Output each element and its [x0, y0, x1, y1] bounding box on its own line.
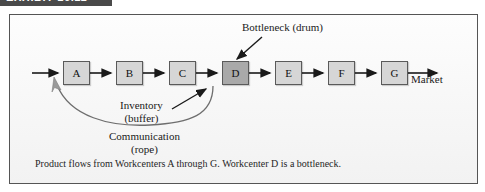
pointer-bottleneck-to-d — [237, 37, 262, 59]
label-inventory-line2: (buffer) — [120, 112, 163, 125]
workcenter-box-a[interactable]: A — [63, 61, 90, 85]
workcenter-box-e[interactable]: E — [275, 61, 302, 85]
exhibit-figure-screenshot: EXHIBIT 16.11 — [0, 0, 485, 192]
workcenter-box-g[interactable]: G — [381, 61, 408, 85]
label-inventory-line1: Inventory — [120, 99, 163, 112]
rope-arrowhead-at-a — [52, 77, 61, 92]
label-communication-line2: (rope) — [109, 143, 180, 156]
workcenter-box-c[interactable]: C — [169, 61, 196, 85]
figure-caption: Product flows from Workcenters A through… — [35, 158, 341, 169]
workcenter-box-f[interactable]: F — [328, 61, 355, 85]
label-communication-line1: Communication — [109, 130, 180, 143]
workcenter-box-b[interactable]: B — [116, 61, 143, 85]
label-inventory-buffer: Inventory (buffer) — [120, 99, 163, 125]
label-communication-rope: Communication (rope) — [109, 130, 180, 156]
label-bottleneck-drum: Bottleneck (drum) — [242, 21, 323, 33]
label-market: Market — [411, 73, 443, 85]
figure-panel: A B C D E F G Bottleneck (drum) Market I… — [9, 14, 478, 184]
pointer-inventory-to-buffer — [172, 89, 206, 109]
exhibit-header-bar: EXHIBIT 16.11 — [0, 0, 112, 6]
workcenter-box-d[interactable]: D — [222, 61, 249, 85]
